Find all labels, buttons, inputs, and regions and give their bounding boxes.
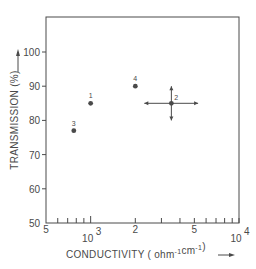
data-point-2: 2 bbox=[144, 86, 198, 120]
point-label: 1 bbox=[89, 92, 93, 99]
x-tick-label: 5 bbox=[192, 224, 198, 235]
y-tick-label: 80 bbox=[29, 115, 41, 126]
arrow-down-icon bbox=[169, 116, 173, 120]
data-point-1: 1 bbox=[88, 92, 93, 105]
data-point-3: 3 bbox=[71, 120, 76, 133]
y-axis-arrow-icon bbox=[16, 49, 20, 56]
x-tick-label: 10 bbox=[82, 233, 94, 244]
point-marker bbox=[71, 128, 76, 133]
x-tick-label: 10 bbox=[230, 233, 242, 244]
x-tick-label-exponent: 4 bbox=[244, 226, 250, 237]
data-points: 1234 bbox=[71, 75, 198, 133]
x-tick-label-exponent: 3 bbox=[96, 226, 102, 237]
y-axis-ticks: 5060708090100 bbox=[23, 47, 46, 229]
y-tick-label: 60 bbox=[29, 184, 41, 195]
x-tick-label: 5 bbox=[43, 224, 49, 235]
y-tick-label: 70 bbox=[29, 150, 41, 161]
point-marker bbox=[88, 101, 93, 106]
y-tick-label: 90 bbox=[29, 81, 41, 92]
arrow-right-icon bbox=[194, 101, 198, 105]
arrow-left-icon bbox=[144, 101, 148, 105]
point-marker bbox=[169, 101, 174, 106]
y-axis-label: TRANSMISSION (%) bbox=[9, 70, 20, 169]
point-marker bbox=[133, 84, 138, 89]
scatter-chart: 5060708090100 510325104 1234 TRANSMISSIO… bbox=[0, 0, 256, 269]
point-label: 4 bbox=[133, 75, 137, 82]
x-axis-arrow-icon bbox=[229, 253, 235, 257]
arrow-up-icon bbox=[169, 86, 173, 90]
x-tick-label: 2 bbox=[133, 224, 139, 235]
x-axis-ticks: 510325104 bbox=[43, 216, 250, 244]
point-label: 2 bbox=[174, 94, 178, 101]
data-point-4: 4 bbox=[133, 75, 138, 88]
y-tick-label: 100 bbox=[23, 47, 40, 58]
point-label: 3 bbox=[72, 120, 76, 127]
y-tick-label: 50 bbox=[29, 218, 41, 229]
